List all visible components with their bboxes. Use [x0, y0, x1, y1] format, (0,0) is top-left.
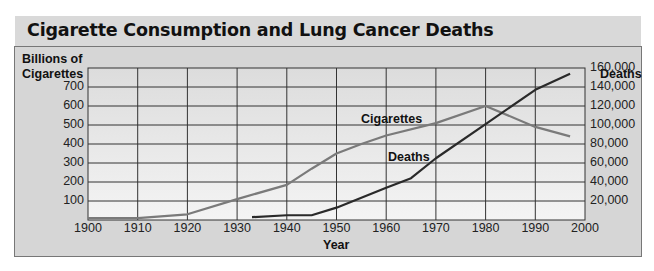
y-left-tick-label: 400 [63, 136, 84, 150]
deaths-annotation: Deaths [388, 150, 430, 164]
x-tick-label: 2000 [569, 221, 601, 235]
y-right-tick-label: 80,000 [590, 136, 628, 150]
y-left-tick-label: 500 [63, 117, 84, 131]
y-left-tick-label: 700 [63, 79, 84, 93]
y-right-tick-label: 20,000 [590, 193, 628, 207]
y-left-tick-label: 600 [63, 98, 84, 112]
x-tick-label: 1970 [420, 221, 452, 235]
x-tick-label: 1950 [321, 221, 353, 235]
y-left-tick-label: 300 [63, 155, 84, 169]
x-tick-label: 1990 [519, 221, 551, 235]
y-right-tick-label: 140,000 [590, 79, 635, 93]
cigarettes-annotation: Cigarettes [361, 112, 422, 126]
y-left-tick-label: 200 [63, 174, 84, 188]
y-right-tick-label: 40,000 [590, 174, 628, 188]
y-right-tick-label: 60,000 [590, 155, 628, 169]
x-tick-label: 1910 [122, 221, 154, 235]
y-right-tick-label: 100,000 [590, 117, 635, 131]
x-tick-label: 1920 [171, 221, 203, 235]
y-right-tick-label: 160,000 [590, 60, 635, 74]
x-axis-title: Year [323, 238, 349, 252]
left-axis-title-line1: Billions of [22, 52, 82, 66]
x-tick-label: 1930 [221, 221, 253, 235]
x-tick-label: 1940 [271, 221, 303, 235]
y-left-tick-label: 100 [63, 193, 84, 207]
x-tick-label: 1960 [370, 221, 402, 235]
x-tick-label: 1980 [470, 221, 502, 235]
x-tick-label: 1900 [72, 221, 104, 235]
y-right-tick-label: 120,000 [590, 98, 635, 112]
